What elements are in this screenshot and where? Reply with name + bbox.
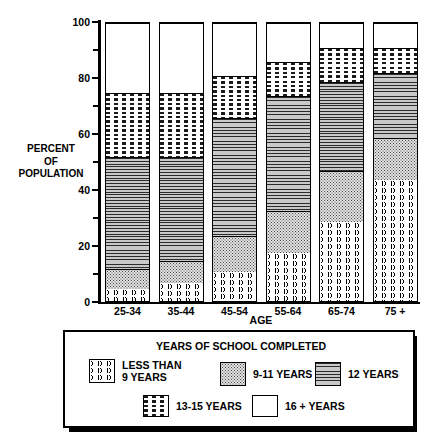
bar-segment-9-11-years xyxy=(213,236,256,272)
y-tick-label-80: 80 xyxy=(50,73,90,84)
y-tick-label-20: 20 xyxy=(50,241,90,252)
legend-shadow-bottom xyxy=(69,428,417,432)
legend-box: YEARS OF SCHOOL COMPLETED LESS THAN 9 YE… xyxy=(63,330,415,428)
bar-45-54 xyxy=(212,22,257,302)
legend-entry-13-15-years[interactable]: 13-15 YEARS xyxy=(143,395,242,417)
bar-segment-less-than-9-years xyxy=(320,222,363,302)
bar-segment-13-15-years xyxy=(213,76,256,118)
y-axis-title-line-3: POPULATION xyxy=(8,168,94,181)
bar-segment-13-15-years xyxy=(374,48,417,73)
legend-title: YEARS OF SCHOOL COMPLETED xyxy=(65,340,417,352)
y-tick-mark-30 xyxy=(93,217,99,219)
y-tick-mark-40 xyxy=(92,189,99,191)
legend-entry-12-years[interactable]: 12 YEARS xyxy=(315,362,399,386)
stacked-bar-chart-figure: 100 80 60 40 20 0 PERCENT OF POPULATION … xyxy=(0,0,438,441)
bar-segment-16-years xyxy=(320,23,363,48)
legend-label-9-11-years: 9-11 YEARS xyxy=(253,368,312,380)
y-tick-mark-0 xyxy=(92,301,99,303)
bar-segment-less-than-9-years xyxy=(106,289,149,302)
y-tick-mark-20 xyxy=(92,245,99,247)
bar-segment-9-11-years xyxy=(160,261,203,283)
bar-25-34 xyxy=(105,22,150,302)
bar-segment-12-years xyxy=(213,118,256,236)
bar-35-44 xyxy=(159,22,204,302)
legend-label-13-15-years: 13-15 YEARS xyxy=(176,400,242,412)
y-tick-mark-90 xyxy=(93,49,99,51)
legend-swatch-dashed-lines-icon xyxy=(143,395,169,417)
y-tick-mark-10 xyxy=(93,273,99,275)
x-axis-title: AGE xyxy=(104,314,418,326)
bar-segment-16-years xyxy=(160,23,203,93)
bar-segment-13-15-years xyxy=(106,93,149,157)
bar-segment-less-than-9-years xyxy=(267,253,310,302)
legend-entry-less-than-9-years[interactable]: LESS THAN 9 YEARS xyxy=(89,359,182,383)
legend-label-less-than-9-years: LESS THAN 9 YEARS xyxy=(122,359,182,383)
bar-segment-less-than-9-years xyxy=(374,180,417,302)
x-axis-line xyxy=(98,302,420,304)
bar-segment-less-than-9-years xyxy=(213,272,256,302)
y-axis-title-line-2: OF xyxy=(8,156,94,169)
bar-segment-12-years xyxy=(320,82,363,172)
y-tick-label-60: 60 xyxy=(50,129,90,140)
y-tick-mark-70 xyxy=(93,105,99,107)
bar-segment-12-years xyxy=(106,157,149,269)
bar-55-64 xyxy=(266,22,311,302)
legend-swatch-solid-white-icon xyxy=(252,395,278,417)
legend-swatch-dotted-stipple-icon xyxy=(220,362,246,386)
bar-segment-12-years xyxy=(374,73,417,137)
legend-label-16-plus-years: 16 + YEARS xyxy=(285,400,345,412)
bar-segment-13-15-years xyxy=(320,48,363,82)
bar-75- xyxy=(373,22,418,302)
bar-segment-16-years xyxy=(267,23,310,62)
bar-segment-less-than-9-years xyxy=(160,283,203,302)
bar-segment-16-years xyxy=(213,23,256,76)
y-tick-mark-60 xyxy=(92,133,99,135)
bar-segment-16-years xyxy=(374,23,417,48)
y-axis-title-line-1: PERCENT xyxy=(8,143,94,156)
legend-entry-9-11-years[interactable]: 9-11 YEARS xyxy=(220,362,312,386)
bar-segment-9-11-years xyxy=(267,211,310,253)
legend-swatch-horizontal-lines-icon xyxy=(315,362,341,386)
bar-65-74 xyxy=(319,22,364,302)
plot-area xyxy=(104,22,418,302)
bar-segment-13-15-years xyxy=(267,62,310,96)
y-tick-label-0: 0 xyxy=(50,297,90,308)
bar-segment-12-years xyxy=(160,157,203,261)
bar-segment-16-years xyxy=(106,23,149,93)
y-tick-mark-100 xyxy=(92,21,99,23)
legend-label-12-years: 12 YEARS xyxy=(348,368,399,380)
y-tick-mark-80 xyxy=(92,77,99,79)
legend-entry-16-plus-years[interactable]: 16 + YEARS xyxy=(252,395,345,417)
y-tick-label-100: 100 xyxy=(50,17,90,28)
bar-segment-12-years xyxy=(267,96,310,211)
bar-segment-13-15-years xyxy=(160,93,203,157)
y-axis-title: PERCENT OF POPULATION xyxy=(8,143,94,181)
legend-swatch-wavy-lines-icon xyxy=(89,359,115,383)
bar-segment-9-11-years xyxy=(320,171,363,221)
bar-segment-9-11-years xyxy=(106,269,149,289)
bar-segment-9-11-years xyxy=(374,138,417,180)
y-tick-label-40: 40 xyxy=(50,185,90,196)
